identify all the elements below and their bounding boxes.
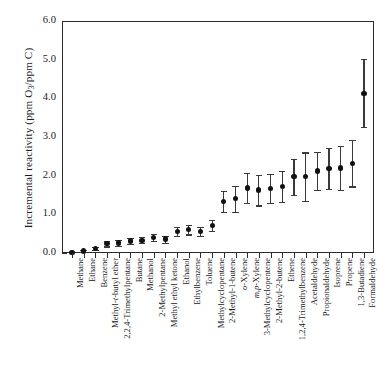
x-tick-label: 3-Methylcyclopentene [262, 258, 272, 335]
x-tick-label: Toluene [204, 258, 214, 286]
y-tick-label: 6.0 [26, 14, 56, 25]
data-marker [280, 184, 285, 189]
data-marker [245, 185, 250, 190]
error-bar-cap [232, 186, 238, 187]
data-marker [210, 223, 215, 228]
x-tick-label: 1,3-Butadiene [356, 258, 366, 306]
x-tick-label: Methanol [145, 258, 155, 291]
error-bar-cap [338, 190, 344, 191]
data-marker [338, 165, 343, 170]
data-marker [163, 236, 168, 241]
x-tick-label: 1,2,4-Trimethylbenzene [297, 258, 307, 340]
error-bar-cap [151, 241, 157, 242]
x-tick-label: Acetaldehyde [309, 258, 319, 305]
x-tick-label: Butane [134, 258, 144, 282]
error-bar-cap [267, 203, 273, 204]
error-bar-cap [326, 189, 332, 190]
data-marker [128, 238, 133, 243]
error-bar-cap [349, 186, 355, 187]
x-tick-label: Benzene [99, 258, 109, 288]
data-marker [291, 174, 296, 179]
x-tick-label: Propene [344, 258, 354, 286]
y-tick-label: 2.0 [26, 169, 56, 180]
x-tick-label: Methane [75, 258, 85, 288]
error-bar-cap [361, 127, 367, 128]
error-bar-cap [232, 212, 238, 213]
error-bar-cap [256, 205, 262, 206]
data-marker [361, 91, 366, 96]
data-marker [116, 240, 121, 245]
y-tick-label: 4.0 [26, 91, 56, 102]
error-bar-cap [186, 234, 192, 235]
error-bar-cap [314, 190, 320, 191]
x-tick-label: o-Xylene [239, 258, 249, 290]
error-bar-cap [186, 225, 192, 226]
error-bar-cap [314, 152, 320, 153]
error-bar-cap [221, 212, 227, 213]
error-bar-cap [209, 231, 215, 232]
x-tick-label: 2,2,4-Trimethylpentane [122, 258, 132, 339]
x-tick-label: 2-Methyl-1-butene [227, 258, 237, 323]
error-bar-cap [338, 146, 344, 147]
data-marker [198, 229, 203, 234]
error-bar-cap [291, 195, 297, 196]
error-bar-cap [244, 173, 250, 174]
x-tick-label: Formaldehyde [367, 258, 377, 308]
x-tick-mark [72, 253, 73, 258]
x-tick-label: 2-Methyl-2-butene [274, 258, 284, 323]
error-bar-cap [162, 243, 168, 244]
data-marker [139, 238, 144, 243]
y-tick-label: 0.0 [26, 246, 56, 257]
data-marker [93, 246, 98, 251]
y-tick-mark [62, 253, 67, 254]
error-bar-cap [279, 171, 285, 172]
x-tick-label: Isoprene [332, 258, 342, 288]
y-tick-label: 5.0 [26, 53, 56, 64]
error-bar-cap [115, 246, 121, 247]
error-bar-cap [256, 175, 262, 176]
error-bar-cap [291, 159, 297, 160]
plot-area [62, 21, 374, 253]
error-bar-cap [279, 202, 285, 203]
x-tick-label: Ethanol [181, 258, 191, 285]
x-tick-label: Ethylbenzene [192, 258, 202, 305]
reactivity-chart: Incremental reactivity (ppm O3/ppm C) 0.… [0, 0, 390, 370]
error-bar-cap [174, 236, 180, 237]
error-bar-cap [267, 174, 273, 175]
error-bar-cap [361, 59, 367, 60]
error-bar-cap [104, 246, 110, 247]
error-bar-cap [221, 191, 227, 192]
x-tick-label: Methyl-t-butyl ether [110, 258, 120, 328]
x-tick-label: Methylcyclopentane [216, 258, 226, 328]
x-tick-label: Ethene [286, 258, 296, 282]
x-tick-label: Methyl ethyl ketone [169, 258, 179, 327]
error-bar-cap [127, 244, 133, 245]
x-tick-label: Ethane [87, 258, 97, 282]
data-marker [350, 161, 355, 166]
data-marker [315, 168, 320, 173]
error-bar-cap [302, 201, 308, 202]
error-bar-cap [209, 220, 215, 221]
error-bar-cap [244, 203, 250, 204]
y-tick-label: 3.0 [26, 130, 56, 141]
error-bar-cap [197, 227, 203, 228]
error-bar-cap [349, 140, 355, 141]
x-tick-label: Propionaldehyde [321, 258, 331, 316]
error-bar-cap [326, 148, 332, 149]
error-bar-cap [197, 236, 203, 237]
error-bar-cap [302, 152, 308, 153]
data-marker [104, 241, 109, 246]
x-tick-label: m,p-Xylene [251, 258, 261, 298]
error-bar-cap [139, 243, 145, 244]
y-tick-label: 1.0 [26, 207, 56, 218]
data-marker [326, 166, 331, 171]
x-tick-label: 2-Methylpentane [157, 258, 167, 317]
data-marker [175, 229, 180, 234]
